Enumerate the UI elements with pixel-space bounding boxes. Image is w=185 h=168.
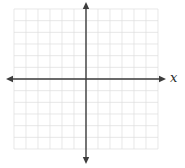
coordinate-plane: x (0, 0, 185, 168)
axes (6, 2, 166, 164)
x-axis-label: x (170, 70, 177, 86)
grid-and-axes-canvas (0, 0, 185, 168)
